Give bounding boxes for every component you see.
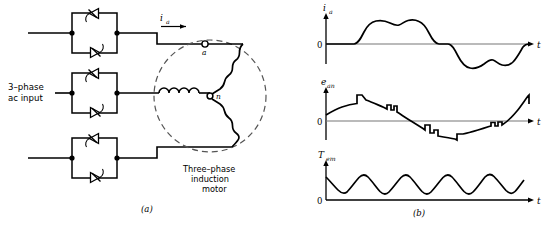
- y-axis-sublabel: a: [329, 8, 333, 15]
- stator-winding-phase-b: [159, 88, 199, 93]
- y-axis-arrow: [323, 13, 328, 19]
- induction-motor-symbol: a n Three–phase induction motor: [154, 40, 266, 194]
- input-label-line1: 3–phase: [8, 82, 44, 92]
- motor-label-line3: motor: [202, 184, 227, 194]
- switch-box-outline: [72, 13, 117, 53]
- y-axis-label: T: [318, 150, 325, 160]
- terminal-a-node: [202, 41, 208, 47]
- current-positive-halfcycle: [326, 20, 443, 44]
- neutral-node-label: n: [216, 92, 221, 101]
- switch-node-left: [69, 30, 74, 35]
- phase-middle: [55, 69, 210, 118]
- plot-back-emf: t 0 e an: [317, 77, 541, 140]
- thyristor-lower-icon: [91, 169, 104, 183]
- gate-lead: [100, 44, 104, 53]
- current-arrow-ia: i a: [160, 13, 186, 29]
- back-emf-trace: [326, 95, 529, 140]
- y-axis-sublabel: em: [326, 155, 336, 162]
- stator-winding-phase-a: [212, 44, 243, 94]
- x-axis-arrow: [528, 118, 534, 123]
- thyristor-upper-icon: [86, 9, 99, 23]
- switch-node-left: [69, 155, 74, 160]
- x-axis-arrow: [528, 197, 534, 202]
- switch-box-outline: [72, 138, 117, 178]
- input-label-line2: ac input: [8, 93, 43, 103]
- x-axis-label: t: [537, 40, 541, 50]
- panel-b-waveforms: t 0 i a t 0 e an t 0: [317, 3, 541, 218]
- figure-container: i a: [0, 0, 551, 226]
- torque-ripple-trace: [326, 174, 524, 194]
- y-axis-sublabel: an: [327, 82, 335, 89]
- x-axis-label: t: [537, 196, 541, 206]
- current-label-i: i: [160, 13, 163, 23]
- phase-top: [28, 9, 205, 58]
- terminal-a-label: a: [202, 48, 206, 57]
- panel-a-caption: (a): [141, 204, 153, 214]
- stator-winding-phase-c: [212, 99, 239, 147]
- current-negative-halfcycle: [443, 44, 529, 68]
- zero-label: 0: [317, 117, 322, 127]
- motor-label-line1: Three–phase: [182, 164, 235, 174]
- panel-a-circuit: i a: [8, 9, 266, 215]
- plot-torque: t 0 T em: [317, 150, 541, 206]
- thyristor-lower-icon: [91, 44, 104, 58]
- thyristor-switch-middle[interactable]: [69, 69, 119, 118]
- thyristor-upper-icon: [86, 69, 99, 83]
- switch-node-left: [69, 90, 74, 95]
- thyristor-switch-bottom[interactable]: [69, 134, 119, 183]
- zero-label: 0: [317, 196, 322, 206]
- neutral-node-n: [207, 93, 213, 99]
- zero-label: 0: [317, 40, 322, 50]
- top-output-lead: [117, 33, 205, 44]
- x-axis-label: t: [537, 117, 541, 127]
- plot-phase-current: t 0 i a: [317, 3, 541, 68]
- panel-b-caption: (b): [413, 208, 425, 218]
- thyristor-upper-icon: [86, 134, 99, 148]
- current-label-sub: a: [166, 18, 170, 25]
- bottom-output-lead: [117, 147, 232, 158]
- input-source-label: 3–phase ac input: [8, 82, 44, 103]
- thyristor-lower-icon: [91, 104, 104, 118]
- motor-label-line2: induction: [191, 174, 229, 184]
- y-axis-label: i: [323, 3, 326, 13]
- thyristor-switch-top[interactable]: [69, 9, 119, 58]
- gate-lead: [86, 14, 90, 23]
- y-axis-label: e: [321, 77, 326, 87]
- switch-box-outline: [72, 73, 117, 113]
